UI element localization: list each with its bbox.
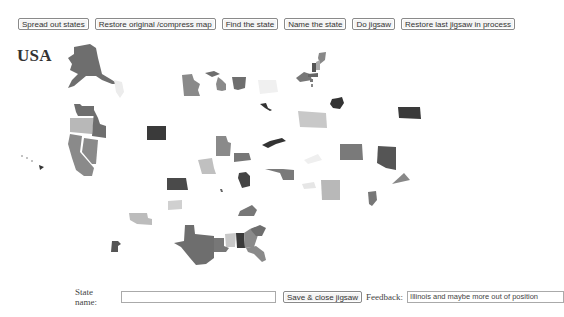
usa-jigsaw-map xyxy=(0,0,564,317)
state-mississippi[interactable] xyxy=(225,233,236,247)
state-faint-2[interactable] xyxy=(304,154,322,164)
state-connecticut[interactable] xyxy=(310,79,313,82)
state-idaho[interactable] xyxy=(92,110,106,138)
state-virginia[interactable] xyxy=(392,173,410,184)
state-oregon[interactable] xyxy=(70,118,94,134)
state-ohio[interactable] xyxy=(330,97,344,109)
state-hawaii-island[interactable] xyxy=(21,155,23,157)
state-delaware[interactable] xyxy=(368,191,377,206)
state-michigan-up[interactable] xyxy=(205,71,220,77)
feedback-input[interactable] xyxy=(407,291,564,303)
state-ohio-like[interactable] xyxy=(232,77,246,90)
state-new-mexico[interactable] xyxy=(129,213,152,225)
state-hawaii-island[interactable] xyxy=(26,157,28,159)
state-dark-small-1[interactable] xyxy=(260,103,272,111)
state-faint-3[interactable] xyxy=(302,182,316,189)
state-arizona[interactable] xyxy=(168,200,182,210)
state-west-virginia[interactable] xyxy=(321,180,340,200)
state-alabama[interactable] xyxy=(236,233,245,248)
state-washington[interactable] xyxy=(74,104,94,116)
state-texas[interactable] xyxy=(174,225,214,265)
state-hawaii[interactable] xyxy=(39,165,44,170)
state-nebraska[interactable] xyxy=(198,158,216,174)
state-alaska[interactable] xyxy=(68,44,118,88)
state-minnesota[interactable] xyxy=(182,74,200,96)
state-north-carolina[interactable] xyxy=(262,138,286,148)
state-iowa[interactable] xyxy=(216,136,231,156)
state-new-hampshire[interactable] xyxy=(316,60,320,70)
state-missouri[interactable] xyxy=(234,153,251,162)
state-pennsylvania[interactable] xyxy=(298,111,327,128)
state-oklahoma[interactable] xyxy=(265,169,294,180)
state-utah[interactable] xyxy=(111,241,121,252)
state-kansas[interactable] xyxy=(167,178,188,190)
jigsaw-form: State name: Save & close jigsaw Feedback… xyxy=(75,287,564,307)
state-michigan[interactable] xyxy=(216,77,226,91)
state-name-label: State name: xyxy=(75,287,117,307)
state-arkansas[interactable] xyxy=(238,205,257,216)
state-alaska-panhandle[interactable] xyxy=(114,80,124,98)
state-florida[interactable] xyxy=(246,246,266,262)
feedback-label: Feedback: xyxy=(366,292,403,302)
state-rhode-island[interactable] xyxy=(311,84,313,87)
state-illinois[interactable] xyxy=(220,189,223,192)
state-massachusetts[interactable] xyxy=(308,73,318,77)
save-close-jigsaw-button[interactable]: Save & close jigsaw xyxy=(283,291,362,303)
state-tennessee[interactable] xyxy=(398,107,421,119)
state-faint-1[interactable] xyxy=(258,80,278,94)
state-indiana[interactable] xyxy=(340,144,363,160)
state-name-input[interactable] xyxy=(121,291,276,303)
state-hawaii-island[interactable] xyxy=(31,160,33,162)
state-vermont[interactable] xyxy=(312,63,316,72)
state-wisconsin[interactable] xyxy=(238,172,250,188)
state-south-dakota[interactable] xyxy=(147,126,166,140)
state-kentucky[interactable] xyxy=(377,146,396,170)
